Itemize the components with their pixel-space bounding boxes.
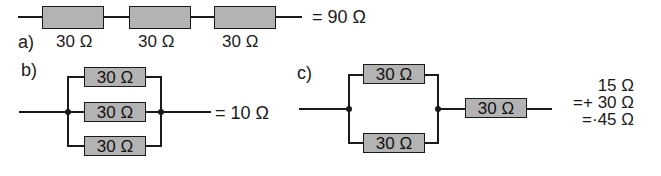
panel-c-stub xyxy=(348,142,363,144)
panel-a-resistor-3-value: 30 Ω xyxy=(222,33,258,50)
panel-c-stub xyxy=(348,74,363,76)
panel-c-result-line-1: 15 Ω xyxy=(598,77,634,94)
panel-b-junction-left xyxy=(65,109,71,115)
panel-b-resistor-1: 30 Ω xyxy=(84,67,146,87)
panel-b-resistor-2-value: 30 Ω xyxy=(97,104,133,121)
panel-b-resistor-3: 30 Ω xyxy=(84,136,146,156)
panel-c-label: c) xyxy=(297,64,312,82)
panel-c-parallel-resistor-1: 30 Ω xyxy=(363,64,425,84)
panel-a-resistor-1 xyxy=(42,6,104,29)
panel-c-stub xyxy=(425,142,439,144)
panel-c-series-resistor-value: 30 Ω xyxy=(478,100,514,117)
panel-a-resistor-2 xyxy=(129,6,191,29)
panel-b-label: b) xyxy=(21,61,37,79)
panel-c-stub xyxy=(425,74,439,76)
panel-b-stub xyxy=(67,145,84,147)
panel-b-resistor-3-value: 30 Ω xyxy=(97,138,133,155)
panel-b-result: = 10 Ω xyxy=(215,104,269,122)
panel-b-stub xyxy=(145,145,162,147)
panel-b-resistor-2: 30 Ω xyxy=(84,102,146,122)
panel-c-result-line-2: =+ 30 Ω xyxy=(573,94,634,111)
panel-c-series-resistor: 30 Ω xyxy=(465,98,527,118)
panel-b-stub xyxy=(145,76,162,78)
panel-c-input-wire xyxy=(299,108,350,110)
panel-a-resistor-1-value: 30 Ω xyxy=(56,33,92,50)
panel-b-stub xyxy=(67,76,84,78)
panel-b-input-wire xyxy=(19,111,69,113)
panel-a-resistor-3 xyxy=(214,6,276,29)
panel-a-label: a) xyxy=(18,33,34,51)
panel-c-result-line-3: =·45 Ω xyxy=(582,111,634,128)
panel-c-junction-left xyxy=(346,106,352,112)
panel-a-resistor-2-value: 30 Ω xyxy=(138,33,174,50)
panel-c-parallel-resistor-2: 30 Ω xyxy=(363,133,425,153)
panel-c-output-wire xyxy=(527,108,552,110)
panel-b-resistor-1-value: 30 Ω xyxy=(97,69,133,86)
panel-b-output-wire xyxy=(161,111,211,113)
panel-c-parallel-resistor-2-value: 30 Ω xyxy=(376,135,412,152)
panel-c-parallel-resistor-1-value: 30 Ω xyxy=(376,66,412,83)
panel-c-middle-wire xyxy=(438,108,465,110)
panel-a-result: = 90 Ω xyxy=(312,8,366,26)
